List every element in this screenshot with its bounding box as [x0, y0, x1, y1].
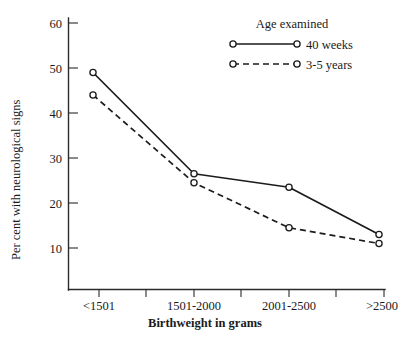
legend-label-40-weeks: 40 weeks: [306, 38, 353, 52]
data-point-marker: [191, 180, 197, 186]
legend-marker-left-open-circle-dashed: [230, 61, 236, 67]
x-axis-title: Birthweight in grams: [148, 316, 262, 330]
data-point-marker: [376, 240, 382, 246]
x-tick-label-1: <1501: [83, 299, 115, 313]
x-tick-label-4: >2500: [366, 299, 398, 313]
legend-marker-right-open-circle-dashed: [294, 61, 300, 67]
data-point-marker: [191, 171, 197, 177]
data-point-marker: [286, 184, 292, 190]
y-tick-label-20: 20: [50, 197, 63, 211]
legend-title: Age examined: [256, 17, 329, 31]
y-tick-label-30: 30: [50, 152, 63, 166]
y-tick-label-40: 40: [50, 107, 63, 121]
chart-figure: 60 50 40 30 20 10 Per cent with neurolog…: [0, 0, 409, 339]
x-tick-label-3: 2001-2500: [262, 299, 316, 313]
data-point-marker: [376, 231, 382, 237]
data-point-marker: [286, 225, 292, 231]
x-tick-label-2: 1501-2000: [167, 299, 221, 313]
y-axis-title: Per cent with neurological signs: [9, 99, 23, 260]
legend-marker-right-open-circle: [294, 41, 300, 47]
line-chart-canvas: 60 50 40 30 20 10 Per cent with neurolog…: [0, 0, 409, 339]
y-tick-label-10: 10: [50, 242, 63, 256]
y-tick-label-50: 50: [50, 62, 63, 76]
data-point-marker: [90, 69, 96, 75]
y-tick-label-60: 60: [50, 17, 63, 31]
legend-marker-left-open-circle: [230, 41, 236, 47]
data-point-marker: [90, 92, 96, 98]
legend-label-3-5-years: 3-5 years: [306, 58, 352, 72]
